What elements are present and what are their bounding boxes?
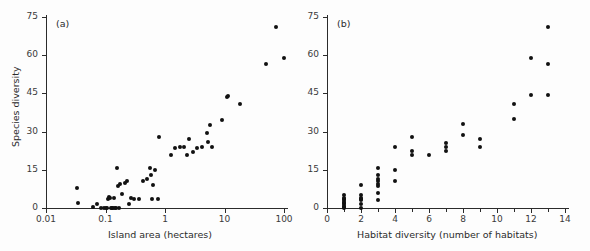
y-tick-label: 0 bbox=[12, 203, 38, 212]
x-tick-label: 1 bbox=[145, 215, 185, 224]
panel-b-habitat-diversity: (b) Habitat diversity (number of habitat… bbox=[295, 0, 590, 251]
y-tick-label: 75 bbox=[293, 12, 319, 21]
data-point bbox=[376, 166, 380, 170]
y-tick-label: 60 bbox=[293, 50, 319, 59]
x-tick-label: 10 bbox=[205, 215, 245, 224]
data-point bbox=[169, 153, 173, 157]
data-point bbox=[359, 183, 363, 187]
data-point bbox=[546, 93, 550, 97]
y-tick bbox=[42, 17, 46, 18]
data-point bbox=[206, 140, 210, 144]
data-point bbox=[282, 56, 286, 60]
data-point bbox=[264, 62, 268, 66]
data-point bbox=[512, 117, 516, 121]
data-point bbox=[461, 133, 465, 137]
panel-a-label: (a) bbox=[56, 19, 69, 29]
data-point bbox=[156, 197, 160, 201]
data-point bbox=[478, 137, 482, 141]
data-point bbox=[274, 25, 278, 29]
data-point bbox=[359, 206, 363, 210]
x-tick bbox=[284, 209, 285, 213]
data-point bbox=[145, 177, 149, 181]
data-point bbox=[393, 168, 397, 172]
y-tick bbox=[323, 93, 327, 94]
data-point bbox=[210, 145, 214, 149]
x-tick-minor bbox=[514, 209, 515, 212]
x-tick bbox=[165, 209, 166, 213]
x-tick bbox=[429, 209, 430, 213]
data-point bbox=[141, 179, 145, 183]
data-point bbox=[512, 102, 516, 106]
y-tick bbox=[42, 132, 46, 133]
x-tick-minor bbox=[446, 209, 447, 212]
data-point bbox=[410, 135, 414, 139]
data-point bbox=[410, 153, 414, 157]
y-tick bbox=[42, 55, 46, 56]
data-point bbox=[117, 206, 121, 210]
data-point bbox=[173, 146, 177, 150]
x-tick bbox=[327, 209, 328, 213]
x-tick bbox=[395, 209, 396, 213]
data-point bbox=[410, 149, 414, 153]
y-tick-label: 30 bbox=[293, 127, 319, 136]
data-point bbox=[195, 146, 199, 150]
data-point bbox=[208, 123, 212, 127]
data-point bbox=[115, 166, 119, 170]
x-tick bbox=[225, 209, 226, 213]
data-point bbox=[444, 149, 448, 153]
data-point bbox=[182, 145, 186, 149]
data-point bbox=[461, 122, 465, 126]
data-point bbox=[120, 192, 124, 196]
data-point bbox=[529, 56, 533, 60]
data-point bbox=[132, 197, 136, 201]
x-tick bbox=[565, 209, 566, 213]
x-tick bbox=[497, 209, 498, 213]
data-point bbox=[105, 206, 109, 210]
y-tick-label: 15 bbox=[12, 165, 38, 174]
figure-container: (a) Species diversity Island area (hecta… bbox=[0, 0, 590, 251]
y-tick bbox=[323, 170, 327, 171]
y-tick bbox=[323, 17, 327, 18]
data-point bbox=[226, 94, 230, 98]
data-point bbox=[112, 196, 116, 200]
x-tick-label: 14 bbox=[545, 215, 585, 224]
y-tick bbox=[42, 93, 46, 94]
y-tick-label: 45 bbox=[12, 88, 38, 97]
data-point bbox=[187, 137, 191, 141]
data-point bbox=[150, 197, 154, 201]
x-axis-line bbox=[327, 208, 569, 209]
x-axis-line bbox=[46, 208, 288, 209]
data-point bbox=[529, 93, 533, 97]
x-tick-minor bbox=[378, 209, 379, 212]
data-point bbox=[200, 145, 204, 149]
x-axis-title-b: Habitat diversity (number of habitats) bbox=[357, 230, 537, 240]
y-tick bbox=[323, 132, 327, 133]
y-tick-label: 60 bbox=[12, 50, 38, 59]
data-point bbox=[76, 201, 80, 205]
data-point bbox=[376, 177, 380, 181]
y-tick-label: 75 bbox=[12, 12, 38, 21]
data-point bbox=[444, 141, 448, 145]
x-tick-minor bbox=[548, 209, 549, 212]
data-point bbox=[444, 145, 448, 149]
y-tick-label: 30 bbox=[12, 127, 38, 136]
data-point bbox=[157, 135, 161, 139]
x-tick bbox=[463, 209, 464, 213]
y-tick-label: 15 bbox=[293, 165, 319, 174]
x-tick-label: 0.1 bbox=[86, 215, 126, 224]
data-point bbox=[153, 168, 157, 172]
data-point bbox=[127, 202, 131, 206]
data-point bbox=[393, 145, 397, 149]
data-point bbox=[478, 145, 482, 149]
x-tick-label: 0.01 bbox=[26, 215, 66, 224]
y-axis-line bbox=[327, 15, 328, 208]
data-point bbox=[118, 182, 122, 186]
y-tick bbox=[42, 170, 46, 171]
data-point bbox=[95, 202, 99, 206]
y-tick bbox=[323, 55, 327, 56]
data-point bbox=[546, 25, 550, 29]
data-point bbox=[376, 173, 380, 177]
data-point bbox=[191, 150, 195, 154]
y-axis-line bbox=[46, 15, 47, 208]
y-tick-label: 45 bbox=[293, 88, 319, 97]
